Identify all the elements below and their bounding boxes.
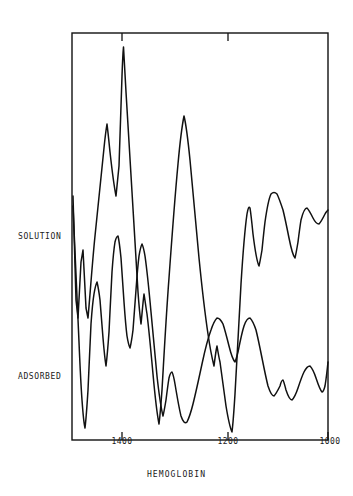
spectrum-plot	[0, 0, 353, 496]
top-tick-marks	[122, 33, 228, 41]
figure-caption: HEMOGLOBIN	[0, 470, 353, 479]
xtick-label-1400: 1400	[112, 437, 133, 446]
trace-label-adsorbed: ADSORBED	[18, 372, 61, 381]
xtick-label-1200: 1200	[218, 437, 239, 446]
plot-frame	[72, 33, 328, 440]
xtick-label-1000: 1000	[320, 437, 341, 446]
trace-label-solution: SOLUTION	[18, 232, 61, 241]
spectrum-figure: SOLUTION ADSORBED 1400 1200 1000 HEMOGLO…	[0, 0, 353, 496]
